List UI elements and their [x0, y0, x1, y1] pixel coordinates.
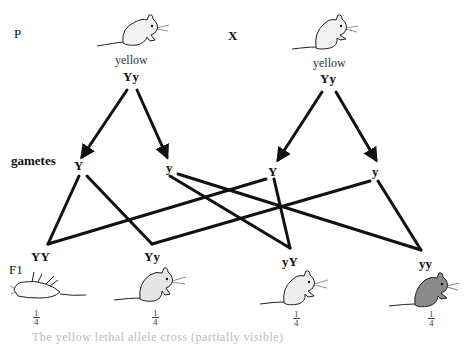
parent-2-mouse	[290, 12, 370, 52]
parent-2-phenotype: yellow	[313, 56, 346, 71]
figure-caption: The yellow lethal allele cross (partiall…	[32, 330, 284, 345]
line-Y1-Yy	[87, 176, 152, 244]
parent-2-genotype: Yy	[320, 71, 336, 87]
arrow-p2-Y	[278, 92, 322, 160]
offspring-Yy-mouse	[112, 265, 192, 305]
gamete-p2-y: y	[372, 164, 379, 180]
gamete-p1-y: y	[166, 160, 173, 176]
offspring-YY-fraction: 1 4	[33, 309, 40, 326]
parent-1-genotype: Yy	[123, 69, 139, 85]
cross-symbol: X	[228, 28, 237, 44]
line-y1-yy	[178, 174, 421, 250]
parental-label: P	[14, 26, 21, 42]
gamete-p1-Y: Y	[74, 158, 83, 174]
offspring-Yy-genotype: Yy	[144, 249, 160, 265]
mouse-yellow-icon	[95, 10, 175, 50]
line-y2-Yy	[152, 181, 370, 244]
offspring-YY-genotype: YY	[31, 249, 50, 265]
arrow-p1-y	[137, 90, 167, 157]
offspring-yY-fraction: 1 4	[293, 310, 300, 327]
offspring-yY-mouse	[258, 268, 338, 308]
offspring-yy-fraction: 1 4	[428, 310, 435, 327]
mouse-yellow-icon	[258, 268, 338, 308]
line-Y2-YY	[48, 179, 266, 244]
mouse-dead-icon	[10, 268, 88, 304]
mouse-yellow-icon	[112, 265, 192, 305]
line-Y1-YY	[48, 176, 79, 244]
arrow-p1-Y	[82, 90, 127, 157]
offspring-Yy-fraction: 1 4	[152, 309, 159, 326]
gamete-p2-Y: Y	[268, 164, 277, 180]
offspring-YY-mouse	[10, 268, 88, 304]
gametes-label: gametes	[11, 153, 56, 169]
line-Y2-yY	[274, 179, 290, 248]
parent-1-mouse	[95, 10, 175, 50]
line-y1-yY	[170, 176, 290, 248]
parent-1-phenotype: yellow	[115, 53, 148, 68]
offspring-yy-mouse	[387, 270, 467, 310]
mouse-yellow-icon	[290, 12, 370, 52]
arrow-p2-y	[336, 92, 376, 160]
mouse-agouti-icon	[387, 270, 467, 310]
